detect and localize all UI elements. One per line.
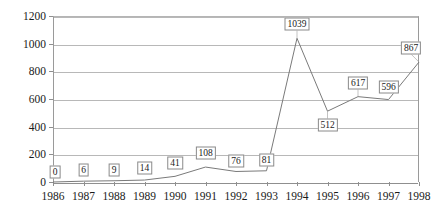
gridline-800 (54, 72, 418, 73)
y-tick-label-0: 0 (0, 176, 46, 188)
y-tick-label-200: 200 (0, 148, 46, 160)
data-label-1990: 41 (167, 157, 183, 170)
data-label-1991: 108 (195, 147, 215, 160)
gridline-1000 (54, 45, 418, 46)
y-tick-label-600: 600 (0, 93, 46, 105)
data-label-1997: 596 (378, 80, 398, 93)
x-tick-mark-1998 (419, 182, 420, 186)
data-label-1992: 76 (228, 155, 244, 168)
data-label-1986: 0 (50, 166, 61, 179)
data-label-1995: 512 (317, 119, 337, 132)
gridline-600 (54, 100, 418, 101)
y-tick-label-1200: 1200 (0, 10, 46, 22)
data-label-1988: 9 (109, 163, 120, 176)
y-tick-label-400: 400 (0, 121, 46, 133)
y-tick-label-1000: 1000 (0, 38, 46, 50)
x-tick-label-1998: 1998 (399, 190, 439, 202)
data-label-1996: 617 (348, 76, 368, 89)
data-label-1994: 1039 (285, 18, 310, 31)
gridline-1200 (54, 17, 418, 18)
gridline-400 (54, 128, 418, 129)
data-label-1998: 867 (401, 42, 421, 55)
gridline-0 (54, 183, 418, 184)
data-label-1993: 81 (259, 153, 275, 166)
y-tick-label-800: 800 (0, 65, 46, 77)
chart-container: Number of Articles 020040060080010001200… (0, 0, 444, 224)
data-label-1989: 14 (137, 162, 153, 175)
data-label-1987: 6 (78, 164, 89, 177)
